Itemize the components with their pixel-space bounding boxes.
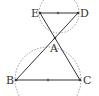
point-c bbox=[79, 79, 82, 82]
segment-ec bbox=[40, 13, 80, 80]
geometry-diagram: E D A B C bbox=[0, 0, 99, 96]
point-b bbox=[15, 79, 18, 82]
segment-db bbox=[16, 13, 78, 80]
label-e: E bbox=[31, 7, 39, 20]
point-a bbox=[54, 37, 57, 40]
point-e bbox=[39, 12, 42, 15]
label-d: D bbox=[80, 7, 89, 20]
dashed-circle-ed bbox=[39, 0, 79, 33]
label-a: A bbox=[49, 42, 59, 55]
point-d bbox=[77, 12, 80, 15]
midpoint-bc bbox=[47, 79, 49, 81]
label-c: C bbox=[83, 74, 91, 87]
midpoint-ed bbox=[57, 12, 59, 14]
dashed-circle-bc bbox=[15, 47, 81, 96]
label-b: B bbox=[6, 74, 14, 87]
